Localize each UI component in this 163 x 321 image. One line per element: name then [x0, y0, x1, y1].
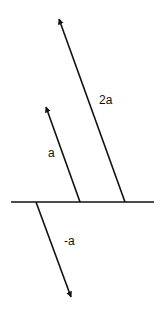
vector-neg-a-arrow: [36, 202, 71, 297]
vector-2a-arrow: [59, 19, 125, 202]
vector-2a: 2a: [59, 19, 125, 202]
vector-2a-label: 2a: [99, 93, 113, 107]
vector-a-label: a: [48, 146, 55, 160]
vector-a: a: [46, 107, 80, 202]
vector-neg-a-label: -a: [64, 234, 75, 248]
vector-diagram: 2a a -a: [0, 0, 163, 321]
vector-neg-a: -a: [36, 202, 75, 297]
